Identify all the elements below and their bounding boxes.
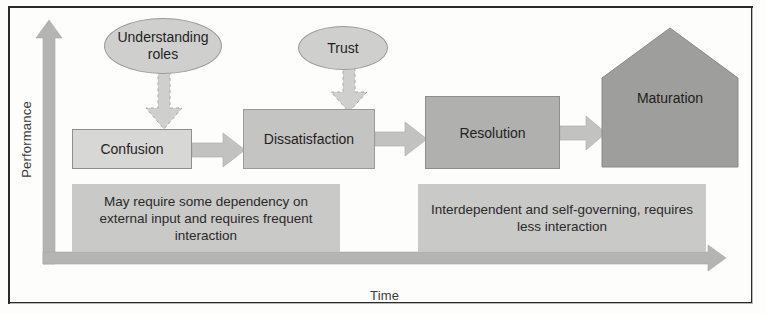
caption-panel-right: Interdependent and self-governing, requi… xyxy=(418,184,706,252)
x-axis-label: Time xyxy=(370,288,399,303)
caption-left-text: May require some dependency on external … xyxy=(80,193,332,244)
stage-label-maturation: Maturation xyxy=(600,26,740,169)
dashed-arrow-trust-to-dissatisfaction xyxy=(325,66,373,114)
stage-label-dissatisfaction: Dissatisfaction xyxy=(264,131,354,147)
stage-box-resolution[interactable]: Resolution xyxy=(425,96,560,169)
dashed-arrow-understanding-roles-to-confusion xyxy=(138,70,190,132)
stage-label-confusion: Confusion xyxy=(100,141,163,157)
caption-panel-left: May require some dependency on external … xyxy=(72,184,340,252)
influence-label-trust: Trust xyxy=(327,40,358,57)
influence-ellipse-understanding-roles[interactable]: Understanding roles xyxy=(104,18,222,74)
stage-box-maturation[interactable]: Maturation xyxy=(600,26,740,169)
flow-arrow-confusion-to-dissatisfaction xyxy=(190,129,248,171)
caption-right-text: Interdependent and self-governing, requi… xyxy=(426,201,698,235)
stage-box-confusion[interactable]: Confusion xyxy=(72,129,192,169)
influence-label-understanding-roles: Understanding roles xyxy=(105,29,221,63)
influence-ellipse-trust[interactable]: Trust xyxy=(298,26,388,70)
stage-box-dissatisfaction[interactable]: Dissatisfaction xyxy=(243,109,375,169)
y-axis-arrow xyxy=(36,20,62,264)
diagram-canvas: Performance Time May require some depend… xyxy=(0,0,765,314)
y-axis-label: Performance xyxy=(19,90,34,190)
flow-arrow-dissatisfaction-to-resolution xyxy=(373,118,429,160)
stage-label-resolution: Resolution xyxy=(459,125,525,141)
